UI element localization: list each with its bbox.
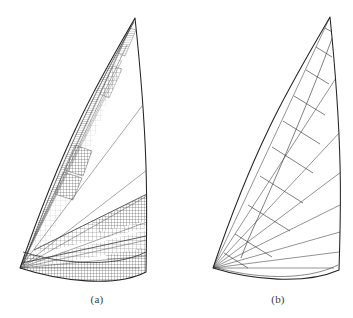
sail-b-group: [213, 17, 341, 279]
sail-a-group: [20, 18, 147, 284]
sail-b-body: [213, 17, 340, 279]
figure-root: (a) (b): [0, 0, 353, 318]
caption-b: (b): [248, 293, 308, 305]
caption-a: (a): [67, 293, 127, 305]
sail-diagram-svg: [0, 0, 353, 318]
